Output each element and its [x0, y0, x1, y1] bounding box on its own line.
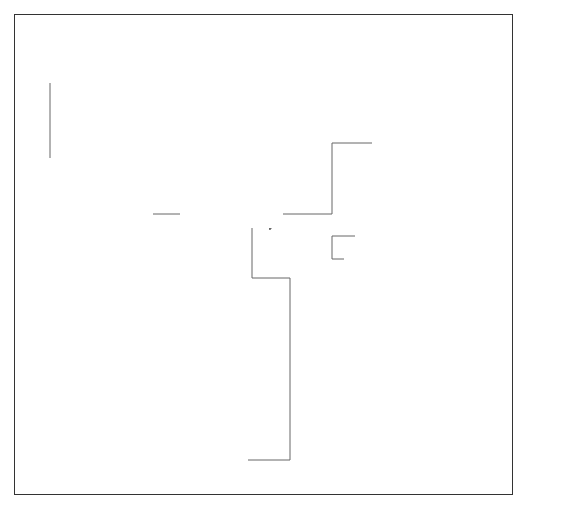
connector-lines — [0, 0, 567, 511]
